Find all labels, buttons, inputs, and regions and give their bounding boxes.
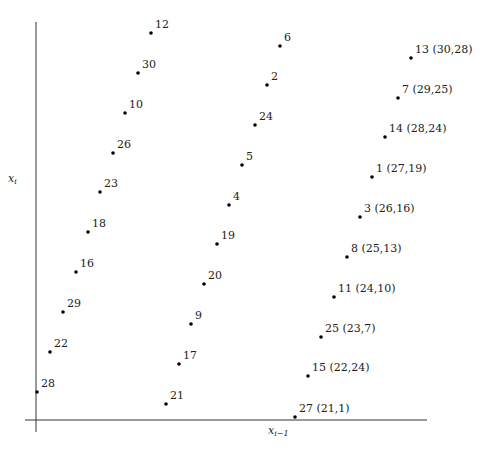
point-label: 12 bbox=[155, 18, 169, 31]
data-points: 2822291618232610301221179201945242627 (2… bbox=[35, 18, 472, 419]
point-label: 1 (27,19) bbox=[376, 162, 427, 175]
data-point: 25 (23,7) bbox=[319, 322, 375, 339]
point-marker bbox=[383, 135, 387, 139]
point-marker bbox=[86, 230, 90, 234]
point-marker bbox=[227, 203, 231, 207]
data-point: 30 bbox=[136, 58, 156, 75]
data-point: 21 bbox=[164, 389, 184, 406]
data-point: 19 bbox=[215, 229, 235, 246]
point-marker bbox=[202, 282, 206, 286]
point-marker bbox=[332, 295, 336, 299]
point-label: 5 bbox=[246, 150, 253, 163]
point-marker bbox=[189, 322, 193, 326]
data-point: 13 (30,28) bbox=[409, 43, 472, 60]
point-label: 6 bbox=[284, 31, 291, 44]
data-point: 12 bbox=[149, 18, 169, 35]
x-axis-label: xi−1 bbox=[268, 424, 289, 438]
point-label: 26 bbox=[117, 138, 131, 151]
data-point: 22 bbox=[48, 337, 68, 354]
point-marker bbox=[293, 415, 297, 419]
point-marker bbox=[306, 374, 310, 378]
point-label: 10 bbox=[129, 98, 143, 111]
point-marker bbox=[149, 31, 153, 35]
data-point: 16 bbox=[74, 257, 94, 274]
point-marker bbox=[358, 215, 362, 219]
point-label: 14 (28,24) bbox=[389, 122, 447, 135]
data-point: 1 (27,19) bbox=[370, 162, 426, 179]
data-point: 15 (22,24) bbox=[306, 361, 369, 378]
point-marker bbox=[74, 270, 78, 274]
point-label: 16 bbox=[80, 257, 94, 270]
point-marker bbox=[240, 163, 244, 167]
point-label: 8 (25,13) bbox=[351, 242, 402, 255]
point-label: 25 (23,7) bbox=[325, 322, 376, 335]
data-point: 14 (28,24) bbox=[383, 122, 446, 139]
data-point: 27 (21,1) bbox=[293, 402, 349, 419]
point-marker bbox=[278, 44, 282, 48]
point-label: 22 bbox=[54, 337, 68, 350]
point-label: 27 (21,1) bbox=[299, 402, 350, 415]
point-label: 4 bbox=[233, 190, 240, 203]
point-label: 20 bbox=[208, 269, 222, 282]
point-label: 3 (26,16) bbox=[364, 202, 415, 215]
lag-scatter-plot: xi xi−1 28222916182326103012211792019452… bbox=[0, 0, 485, 456]
data-point: 24 bbox=[253, 110, 273, 127]
point-label: 30 bbox=[142, 58, 156, 71]
point-label: 7 (29,25) bbox=[402, 83, 453, 96]
data-point: 17 bbox=[177, 349, 197, 366]
data-point: 26 bbox=[111, 138, 131, 155]
data-point: 8 (25,13) bbox=[345, 242, 401, 259]
point-marker bbox=[396, 96, 400, 100]
data-point: 5 bbox=[240, 150, 253, 167]
point-label: 11 (24,10) bbox=[338, 282, 396, 295]
point-label: 9 bbox=[195, 309, 202, 322]
point-marker bbox=[409, 56, 413, 60]
point-label: 2 bbox=[271, 70, 278, 83]
point-marker bbox=[370, 175, 374, 179]
data-point: 28 bbox=[35, 377, 55, 394]
point-marker bbox=[35, 390, 39, 394]
data-point: 7 (29,25) bbox=[396, 83, 452, 100]
point-marker bbox=[345, 255, 349, 259]
point-marker bbox=[164, 402, 168, 406]
point-marker bbox=[265, 83, 269, 87]
data-point: 9 bbox=[189, 309, 202, 326]
data-point: 20 bbox=[202, 269, 222, 286]
data-point: 2 bbox=[265, 70, 278, 87]
point-marker bbox=[111, 151, 115, 155]
point-marker bbox=[98, 190, 102, 194]
point-label: 21 bbox=[170, 389, 184, 402]
data-point: 11 (24,10) bbox=[332, 282, 395, 299]
point-label: 23 bbox=[104, 177, 118, 190]
y-axis-label: xi bbox=[8, 172, 17, 186]
data-point: 23 bbox=[98, 177, 118, 194]
point-label: 18 bbox=[92, 217, 106, 230]
data-point: 4 bbox=[227, 190, 240, 207]
data-point: 10 bbox=[123, 98, 143, 115]
point-label: 13 (30,28) bbox=[415, 43, 473, 56]
data-point: 6 bbox=[278, 31, 291, 48]
point-label: 28 bbox=[41, 377, 55, 390]
point-marker bbox=[136, 71, 140, 75]
point-marker bbox=[123, 111, 127, 115]
data-point: 29 bbox=[61, 297, 81, 314]
point-label: 29 bbox=[67, 297, 81, 310]
point-marker bbox=[61, 310, 65, 314]
data-point: 18 bbox=[86, 217, 106, 234]
point-marker bbox=[48, 350, 52, 354]
point-label: 17 bbox=[183, 349, 197, 362]
point-marker bbox=[177, 362, 181, 366]
point-label: 24 bbox=[259, 110, 273, 123]
point-label: 15 (22,24) bbox=[312, 361, 370, 374]
point-marker bbox=[319, 335, 323, 339]
point-marker bbox=[215, 242, 219, 246]
data-point: 3 (26,16) bbox=[358, 202, 414, 219]
point-marker bbox=[253, 123, 257, 127]
point-label: 19 bbox=[221, 229, 235, 242]
